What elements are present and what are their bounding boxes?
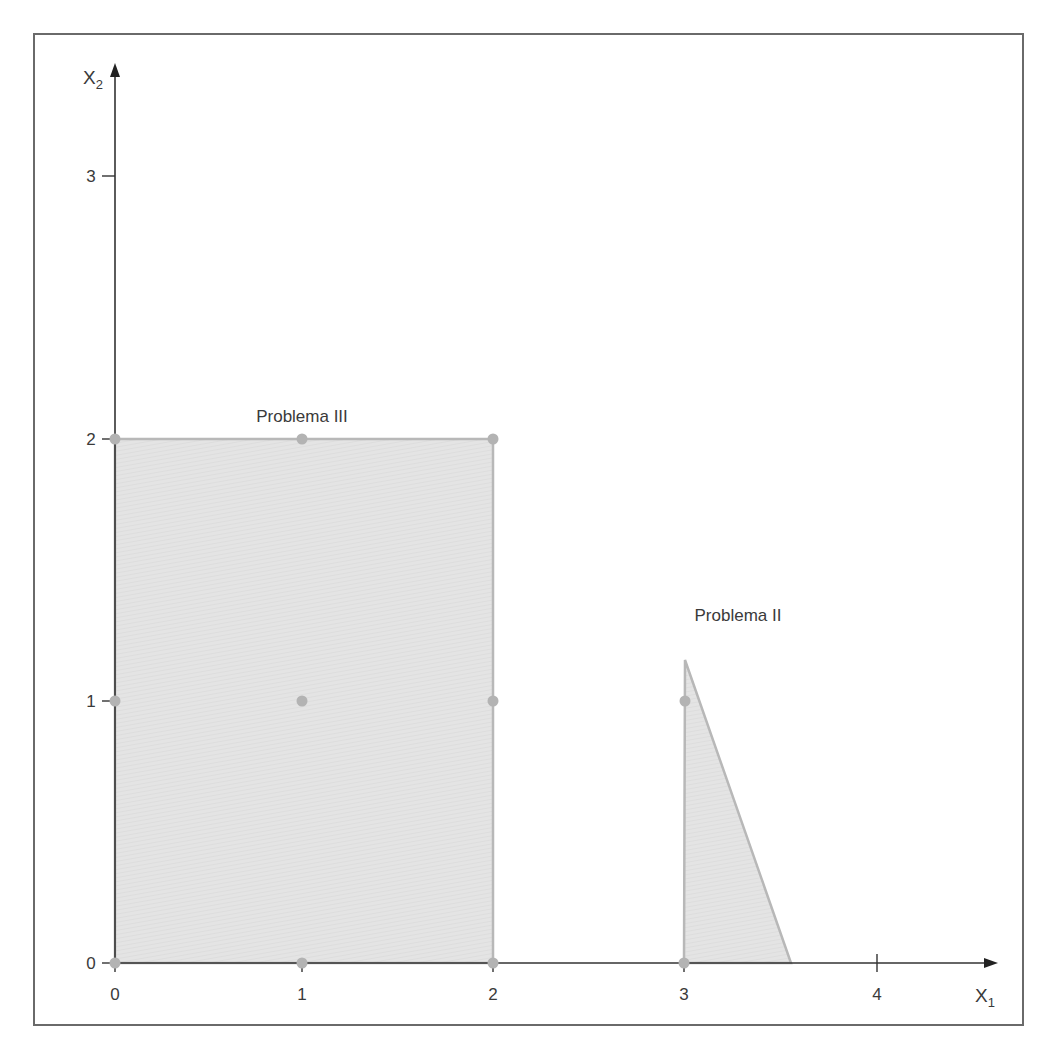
region-label-problema-ii: Problema II xyxy=(695,606,782,625)
x-tick-label-3: 3 xyxy=(679,985,688,1004)
x-axis-arrow-icon xyxy=(984,958,998,968)
x-tick-label-2: 2 xyxy=(488,985,497,1004)
y-axis-label-subscript: 2 xyxy=(96,77,103,92)
x-tick-label-0: 0 xyxy=(110,985,119,1004)
y-tick-label-3: 3 xyxy=(86,167,95,186)
y-axis-arrow-icon xyxy=(110,63,120,77)
y-ticks xyxy=(102,176,115,963)
x-tick-label-4: 4 xyxy=(872,985,881,1004)
y-tick-label-0: 0 xyxy=(86,954,95,973)
y-axis-label: X2 xyxy=(83,67,103,92)
y-tick-label-1: 1 xyxy=(86,692,95,711)
region-problema-ii xyxy=(684,660,791,963)
region-label-problema-iii: Problema III xyxy=(256,407,348,426)
x-axis-label: X1 xyxy=(975,985,995,1010)
x-axis-label-subscript: 1 xyxy=(988,995,995,1010)
y-tick-label-2: 2 xyxy=(86,430,95,449)
x-tick-label-1: 1 xyxy=(297,985,306,1004)
chart-canvas: 0 1 2 3 4 0 1 2 3 X1 X2 Problema III Pro… xyxy=(0,0,1047,1059)
